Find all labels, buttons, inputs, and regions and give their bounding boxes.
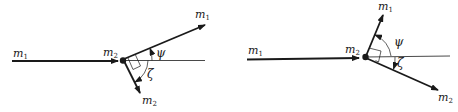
- label-target-m2: m2: [345, 43, 360, 57]
- label-outgoing-m1: m1: [378, 0, 393, 14]
- label-outgoing-m2: m2: [142, 94, 157, 108]
- label-angle-psi: ψ: [156, 46, 166, 60]
- collision-point: [120, 57, 126, 63]
- label-angle-zeta: ζ: [397, 56, 405, 70]
- label-incoming-m1: m1: [13, 47, 28, 61]
- collision-diagrams: m1 m2 m1 m2 ψ ζ m1 m2 m1 m2 ψ ζ: [0, 0, 458, 112]
- label-angle-psi: ψ: [394, 35, 404, 49]
- diagram-left: m1 m2 m1 m2 ψ ζ: [12, 8, 210, 108]
- outgoing-path-m1: [366, 15, 383, 56]
- label-outgoing-m1: m1: [195, 8, 210, 22]
- angle-arc-psi: [150, 49, 152, 61]
- diagram-right: m1 m2 m1 m2 ψ ζ: [247, 0, 453, 105]
- collision-point: [362, 54, 368, 60]
- label-outgoing-m2: m2: [438, 91, 453, 105]
- reference-line: [365, 56, 450, 57]
- outgoing-path-m2: [124, 61, 140, 93]
- incoming-path-m1: [247, 58, 359, 60]
- label-incoming-m1: m1: [248, 44, 263, 58]
- label-target-m2: m2: [103, 46, 118, 60]
- label-angle-zeta: ζ: [147, 67, 155, 81]
- angle-arc-zeta: [394, 57, 396, 69]
- angle-arc-psi: [375, 35, 391, 56]
